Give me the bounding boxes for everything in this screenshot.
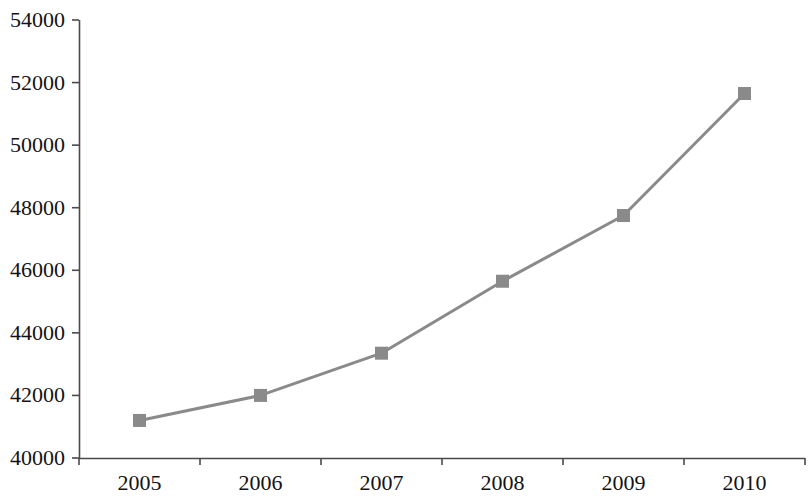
x-axis-tick-label: 2009 xyxy=(602,472,646,494)
data-point-marker xyxy=(617,209,630,222)
y-axis-tick-label: 40000 xyxy=(0,447,65,469)
chart-canvas xyxy=(0,0,808,498)
data-point-marker xyxy=(738,87,751,100)
data-series-line xyxy=(140,94,745,421)
y-axis-tick-label: 50000 xyxy=(0,134,65,156)
data-point-marker xyxy=(375,347,388,360)
y-axis-tick-label: 54000 xyxy=(0,9,65,31)
axis-lines xyxy=(79,20,805,459)
y-axis-ticks xyxy=(72,20,79,458)
y-axis-tick-label: 44000 xyxy=(0,322,65,344)
data-series-markers xyxy=(133,87,751,427)
y-axis-tick-label: 46000 xyxy=(0,259,65,281)
y-axis-tick-label: 42000 xyxy=(0,384,65,406)
y-axis-tick-label: 52000 xyxy=(0,72,65,94)
x-axis-tick-label: 2005 xyxy=(118,472,162,494)
data-point-marker xyxy=(496,275,509,288)
x-axis-tick-label: 2007 xyxy=(360,472,404,494)
x-axis-tick-label: 2010 xyxy=(723,472,767,494)
x-axis-tick-label: 2006 xyxy=(239,472,283,494)
line-chart: 4000042000440004600048000500005200054000… xyxy=(0,0,808,498)
data-point-marker xyxy=(254,389,267,402)
data-point-marker xyxy=(133,414,146,427)
x-axis-tick-label: 2008 xyxy=(481,472,525,494)
y-axis-tick-label: 48000 xyxy=(0,197,65,219)
